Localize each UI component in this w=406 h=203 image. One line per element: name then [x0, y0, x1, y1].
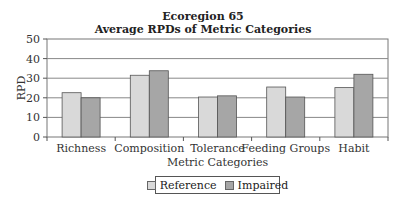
impaired-swatch-icon	[225, 181, 234, 190]
x-tick-label: Composition	[114, 142, 184, 155]
x-tick-label: Richness	[56, 142, 106, 155]
legend-label-impaired: Impaired	[238, 179, 289, 192]
y-axis-label: RPD	[15, 76, 28, 101]
legend: Reference Impaired	[155, 176, 280, 194]
y-tick-label: 10	[26, 111, 40, 124]
reference-swatch-icon	[147, 181, 156, 190]
legend-item-impaired: Impaired	[225, 179, 289, 192]
legend-item-reference: Reference	[147, 179, 217, 192]
bar-reference	[199, 97, 218, 137]
bar-impaired	[218, 96, 237, 137]
bar-reference	[267, 87, 286, 137]
y-tick-label: 0	[33, 131, 40, 144]
bar-reference	[335, 88, 354, 137]
bar-impaired	[354, 74, 373, 137]
bar-impaired	[286, 97, 305, 137]
x-axis-label: Metric Categories	[167, 156, 268, 169]
bar-reference	[62, 93, 81, 137]
bar-reference	[130, 75, 149, 137]
bar-impaired	[81, 98, 100, 137]
x-tick-label: Feeding Groups	[241, 142, 330, 155]
y-tick-label: 20	[26, 92, 40, 105]
bar-impaired	[149, 71, 168, 137]
x-tick-label: Habit	[338, 142, 370, 155]
legend-label-reference: Reference	[160, 179, 217, 192]
bar-chart: 01020304050RPDRichnessCompositionToleran…	[0, 0, 406, 203]
y-tick-label: 30	[26, 72, 40, 85]
y-tick-label: 50	[26, 33, 40, 46]
y-tick-label: 40	[26, 53, 40, 66]
x-tick-label: Tolerance	[190, 142, 245, 155]
